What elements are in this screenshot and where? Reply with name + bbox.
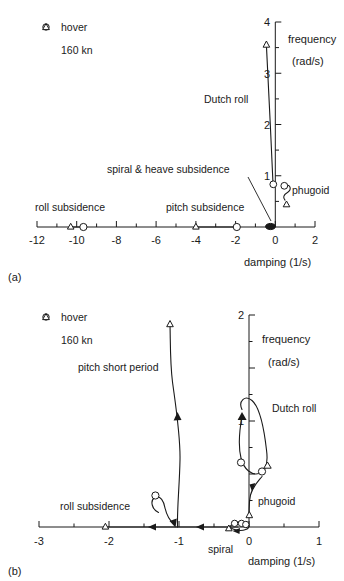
y-axis-title-line1: frequency [262,333,311,345]
arrow-marker [250,483,256,492]
series-roll-subsidence: roll subsidence [35,201,105,231]
panel-b-legend: hover 160 kn [43,311,93,346]
circle-marker [258,468,265,475]
label-pitch-subsidence: pitch subsidence [166,201,244,213]
y-axis-title-line2: (rad/s) [268,356,300,368]
x-tick-label: 0 [246,535,252,547]
y-axis-title-line1: frequency [288,33,337,45]
panel-b-caption: (b) [8,565,21,577]
panel-b-plot: hover 160 kn -3 -2 -1 0 1 [0,290,344,581]
x-tick-label: -12 [29,234,45,246]
circle-marker [80,223,87,230]
label-phugoid: phugoid [292,184,330,196]
circle-marker [270,181,277,188]
circle-marker [237,459,244,466]
circle-marker [243,521,249,527]
label-phugoid: phugoid [258,495,296,507]
x-tick-label: -6 [151,234,161,246]
triangle-marker [193,223,200,229]
arrow-marker [174,412,182,421]
label-dutch-roll: Dutch roll [204,93,248,105]
x-tick-label: -2 [231,234,241,246]
triangle-marker [102,523,109,529]
x-tick-label: 0 [272,234,278,246]
circle-marker [231,520,237,526]
label-roll-subsidence: roll subsidence [35,201,105,213]
series-phugoid: phugoid [246,477,296,518]
x-tick-label: -2 [104,535,114,547]
x-axis-title: damping (1/s) [244,256,311,268]
label-spiral-heave-subsidence: spiral & heave subsidence [107,163,230,175]
arrow-marker [196,523,204,530]
label-roll-subsidence: roll subsidence [60,500,130,512]
legend-label-160kn: 160 kn [61,44,93,56]
eigenvalue-figure: hover 160 kn [0,0,344,581]
legend-label-160kn: 160 kn [61,334,93,346]
circle-marker [281,182,288,189]
triangle-marker [283,201,290,207]
circle-marker [233,223,240,230]
x-tick-label: -3 [34,535,44,547]
series-roll-subsidence: roll subsidence [60,500,238,531]
label-pitch-short-period: pitch short period [78,361,159,373]
legend-label-hover: hover [61,311,88,323]
label-dutch-roll: Dutch roll [272,402,316,414]
series-pitch-short-period: pitch short period [78,321,182,528]
y-tick-label: 2 [238,309,244,321]
arrow-marker [148,523,156,530]
y-axis-title-line2: (rad/s) [292,55,324,67]
series-spiral-heave-subsidence: spiral & heave subsidence [107,163,276,230]
panel-a-plot: hover 160 kn [0,0,344,290]
filled-blob-marker [266,223,276,229]
triangle-marker [264,462,271,468]
series-pitch-subsidence: pitch subsidence [166,201,244,231]
triangle-marker [67,223,74,229]
x-tick-label: -10 [69,234,85,246]
series-phugoid: phugoid [281,182,330,206]
leader-line [248,177,271,221]
x-axis-title: damping (1/s) [248,555,315,567]
y-tick-label: 1 [264,170,270,182]
y-tick-label: 4 [264,16,270,28]
triangle-marker [263,41,270,47]
circle-marker [152,492,159,499]
x-tick-label: 2 [312,234,318,246]
y-tick-label: 3 [264,68,270,80]
y-tick-label: 2 [264,119,270,131]
panel-a-legend: hover 160 kn [43,21,93,56]
legend-label-hover: hover [61,21,88,33]
triangle-marker [167,321,174,327]
label-spiral: spiral [208,543,233,555]
x-tick-label: -4 [191,234,201,246]
panel-b: hover 160 kn -3 -2 -1 0 1 [0,290,344,581]
triangle-marker [246,512,253,518]
panel-a-caption: (a) [8,271,21,283]
x-tick-label: -1 [174,535,184,547]
panel-a: hover 160 kn [0,0,344,290]
x-tick-label: -8 [112,234,122,246]
x-tick-label: 1 [316,535,322,547]
panel-b-x-axis: -3 -2 -1 0 1 damping (1/s) [34,521,322,567]
